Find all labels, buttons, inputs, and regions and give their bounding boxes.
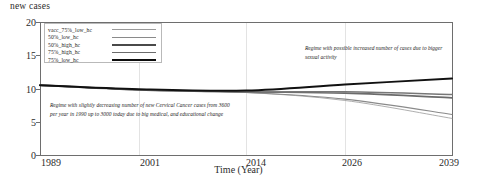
legend-swatch-vacc-75-low-hc bbox=[112, 29, 156, 30]
legend-label-75-high-hc: 75%_high_hc bbox=[48, 49, 110, 55]
cervical-cancer-projection-chart: new cases 0 5 10 15 20 1989 2001 2014 20… bbox=[0, 0, 477, 180]
legend-swatch-75-low-hc bbox=[112, 59, 156, 62]
legend-label-50-low-hc: 50%_low_hc bbox=[48, 34, 110, 40]
legend-item-75-high-hc[interactable]: 75%_high_hc bbox=[48, 49, 158, 56]
legend-item-50-high-hc[interactable]: 50%_high_hc bbox=[48, 41, 158, 48]
legend-label-75-low-hc: 75%_low_hc bbox=[48, 57, 110, 63]
legend-item-50-low-hc[interactable]: 50%_low_hc bbox=[48, 34, 158, 41]
legend-item-vacc-75-low-hc[interactable]: vacc_75%_low_hc bbox=[48, 26, 158, 33]
annotation-left-regime: Regime with slightly decreasing number o… bbox=[50, 101, 230, 119]
legend-label-vacc-75-low-hc: vacc_75%_low_hc bbox=[48, 27, 110, 33]
legend: vacc_75%_low_hc 50%_low_hc 50%_high_hc 7… bbox=[44, 23, 162, 63]
legend-label-50-high-hc: 50%_high_hc bbox=[48, 42, 110, 48]
annotation-right-regime: Regime with possible increased number of… bbox=[305, 44, 445, 62]
legend-swatch-75-high-hc bbox=[112, 52, 156, 54]
legend-swatch-50-low-hc bbox=[112, 37, 156, 38]
legend-item-75-low-hc[interactable]: 75%_low_hc bbox=[48, 56, 158, 63]
legend-swatch-50-high-hc bbox=[112, 44, 156, 46]
x-axis-title: Time (Year) bbox=[0, 164, 477, 175]
